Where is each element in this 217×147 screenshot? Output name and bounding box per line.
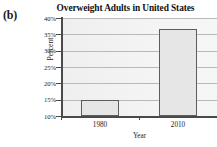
y-axis-tick-mark	[56, 34, 61, 35]
y-axis-tick-label: 40%	[34, 15, 56, 22]
bar-2010	[159, 29, 197, 116]
y-axis-line	[61, 17, 63, 117]
y-axis-tick-label: 10%	[34, 113, 56, 120]
y-axis-tick-mark	[56, 18, 61, 19]
y-axis-tick-labels: 40%35%30%25%20%15%10%	[34, 18, 58, 116]
x-axis-tick-label: 2010	[153, 121, 203, 129]
plot-area	[61, 18, 217, 116]
y-axis-tick-mark	[56, 51, 61, 52]
x-axis-tick-label: 1980	[75, 121, 125, 129]
y-axis-tick-label: 35%	[34, 31, 56, 38]
x-axis-tick-mark	[61, 116, 62, 120]
x-axis-tick-mark	[139, 116, 140, 120]
x-axis-title: Year	[61, 132, 217, 140]
y-axis-tick-mark	[56, 67, 61, 68]
bar-1980	[81, 100, 119, 116]
figure-part-label: (b)	[3, 8, 17, 23]
y-axis-tick-label: 25%	[34, 64, 56, 71]
y-axis-tick-label: 20%	[34, 80, 56, 87]
gridline	[61, 18, 217, 19]
y-axis-tick-label: 15%	[34, 96, 56, 103]
chart-title: Overweight Adults in United States	[34, 3, 217, 13]
y-axis-tick-label: 30%	[34, 47, 56, 54]
y-axis-tick-mark	[56, 83, 61, 84]
y-axis-tick-mark	[56, 100, 61, 101]
bar-chart: Overweight Adults in United States Perce…	[34, 0, 217, 147]
